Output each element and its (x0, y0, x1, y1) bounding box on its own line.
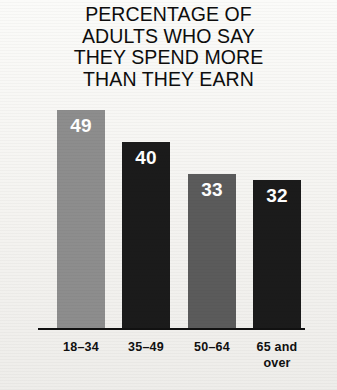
category-label-50-64-line-1: 50–64 (194, 340, 230, 354)
bar-value-50-64: 33 (188, 180, 236, 200)
bar-value-18-34: 49 (57, 116, 105, 136)
category-label-65-and-over-line-2: over (263, 356, 290, 370)
bar-group-18-34[interactable]: 49 18–34 (57, 110, 105, 328)
bar-chart-figure: PERCENTAGE OF ADULTS WHO SAY THEY SPEND … (0, 0, 337, 390)
category-label-65-and-over: 65 and over (239, 340, 315, 371)
bar-18-34[interactable] (57, 110, 105, 328)
category-label-65-and-over-line-1: 65 and (257, 340, 298, 354)
bar-35-49[interactable] (122, 142, 170, 328)
x-axis-baseline (38, 328, 305, 331)
category-label-35-49-line-1: 35–49 (128, 340, 164, 354)
bar-value-35-49: 40 (122, 148, 170, 168)
bar-group-65-and-over[interactable]: 32 65 and over (253, 180, 301, 328)
category-label-35-49: 35–49 (108, 340, 184, 356)
bar-group-35-49[interactable]: 40 35–49 (122, 142, 170, 328)
bar-group-50-64[interactable]: 33 50–64 (188, 174, 236, 328)
category-label-18-34-line-1: 18–34 (63, 340, 99, 354)
plot-area: 49 18–34 40 35–49 33 50–64 32 65 and ov (0, 0, 337, 390)
bar-value-65-and-over: 32 (253, 186, 301, 206)
